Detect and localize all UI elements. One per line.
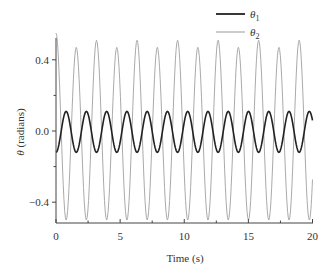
legend: θ1 θ2 (216, 8, 259, 41)
line-chart: 0.40.0−0.4 05101520 Time (s) θ (radians)… (0, 0, 333, 268)
x-tick-label: 10 (179, 230, 191, 242)
series-layer (56, 33, 313, 220)
y-axis-label: θ (radians) (14, 108, 27, 156)
x-tick-label: 0 (53, 230, 59, 242)
y-tick-label: −0.4 (29, 196, 49, 208)
x-axis: 05101520 (53, 219, 318, 242)
x-tick-label: 5 (117, 230, 123, 242)
legend-label-theta2: θ2 (250, 26, 259, 41)
y-tick-label: 0.0 (35, 125, 49, 137)
legend-item-theta2: θ2 (216, 26, 259, 41)
y-tick-label: 0.4 (35, 54, 49, 66)
x-tick-label: 15 (243, 230, 255, 242)
y-axis-label-unit: (radians) (14, 108, 27, 150)
x-tick-label: 20 (307, 230, 319, 242)
y-ticks: 0.40.0−0.4 (29, 54, 56, 208)
legend-label-theta1: θ1 (250, 8, 259, 23)
x-axis-label: Time (s) (166, 252, 204, 265)
y-axis: 0.40.0−0.4 (29, 38, 56, 223)
legend-item-theta1: θ1 (216, 8, 259, 23)
x-ticks: 05101520 (53, 219, 318, 242)
